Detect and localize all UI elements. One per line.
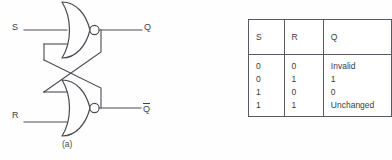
cell-s: 1	[249, 85, 285, 98]
truth-table-head: S R Q	[249, 20, 392, 55]
table-header-row: S R Q	[249, 20, 392, 55]
cell-q: Invalid	[323, 55, 391, 73]
truth-table: S R Q 0 0 Invalid 0 1 1 1 0	[248, 19, 392, 117]
cell-s: 0	[249, 55, 285, 73]
label-qbar-output: Q	[143, 103, 150, 114]
cell-r: 1	[284, 98, 323, 117]
column-header-r: R	[284, 20, 323, 55]
truth-table-body: 0 0 Invalid 0 1 1 1 0 0 1 1 Unchange	[249, 55, 392, 117]
table-row: 0 0 Invalid	[249, 55, 392, 73]
cell-q: 0	[323, 85, 391, 98]
label-q-output: Q	[144, 22, 151, 32]
cell-q: Unchanged	[323, 98, 391, 117]
figure-root: S R Q Q (a) S R Q 0 0 Invalid	[0, 0, 392, 160]
table-row: 1 0 0	[249, 85, 392, 98]
table-row: 1 1 Unchanged	[249, 98, 392, 117]
top-nor-gate-bubble	[90, 25, 99, 34]
column-header-q: Q	[323, 20, 391, 55]
cell-r: 0	[284, 55, 323, 73]
label-r-input: R	[12, 110, 19, 120]
cell-s: 0	[249, 72, 285, 85]
panel-b-truth-table: S R Q 0 0 Invalid 0 1 1 1 0	[196, 0, 392, 160]
bottom-nor-gate-body	[62, 80, 90, 136]
sr-latch-circuit-svg	[0, 0, 196, 160]
column-header-s: S	[249, 20, 285, 55]
cell-s: 1	[249, 98, 285, 117]
bottom-nor-gate-bubble	[90, 103, 99, 112]
cell-r: 0	[284, 85, 323, 98]
cell-r: 1	[284, 72, 323, 85]
wire-qbar-feedback-cross	[44, 60, 101, 108]
table-row: 0 1 1	[249, 72, 392, 85]
label-s-input: S	[12, 22, 18, 32]
caption-panel-a: (a)	[62, 139, 72, 149]
panel-a-logic-diagram: S R Q Q (a)	[0, 0, 196, 160]
label-qbar-text: Q	[143, 103, 150, 114]
cell-q: 1	[323, 72, 391, 85]
